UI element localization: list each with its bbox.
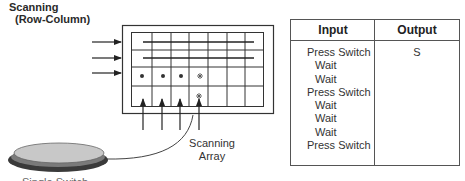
- table-row-input: Press Switch: [307, 139, 371, 152]
- table-row-input: Wait: [307, 99, 371, 112]
- input-column: Press Switch Wait Wait Press Switch Wait…: [307, 46, 371, 152]
- output-column: S: [375, 46, 459, 59]
- switch-icon: [8, 143, 108, 172]
- scanning-grid: [132, 33, 264, 107]
- table-header: Input Output: [291, 20, 459, 41]
- scanning-array-label-line-2: Array: [186, 150, 238, 163]
- table-row-input: Wait: [307, 73, 371, 86]
- selected-row-dots: [140, 74, 183, 78]
- table-row-input: Wait: [307, 59, 371, 72]
- scanning-diagram: [0, 0, 290, 181]
- header-input: Input: [291, 23, 375, 37]
- scanning-array-label-line-1: Scanning: [186, 137, 238, 150]
- column-divider: [374, 20, 375, 165]
- table-row-input: Wait: [307, 126, 371, 139]
- switch-label: Single Switch: [22, 176, 88, 181]
- input-output-table: Input Output Press Switch Wait Wait Pres…: [290, 19, 460, 166]
- header-output: Output: [375, 23, 459, 37]
- table-row-input: Press Switch: [307, 86, 371, 99]
- display-frame: [123, 26, 274, 114]
- scanning-array-label: Scanning Array: [186, 137, 238, 163]
- table-row-input: Press Switch: [307, 46, 371, 59]
- table-row-input: Wait: [307, 112, 371, 125]
- row-arrows: [92, 42, 121, 73]
- table-row-output: S: [375, 46, 459, 59]
